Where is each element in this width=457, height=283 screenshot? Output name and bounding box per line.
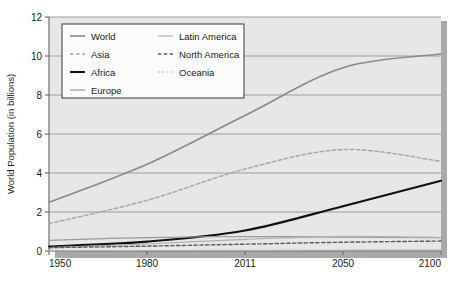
y-tick-label: 4 [36,168,42,179]
legend-label-north-america: North America [179,49,240,60]
y-tick-label: 10 [31,51,43,62]
x-tick-label: 2050 [332,258,355,269]
x-tick-label: 1950 [49,258,72,269]
x-tick-label: 2011 [234,258,256,269]
x-tick-label: 2100 [419,258,442,269]
y-tick-label: 0 [36,246,42,257]
legend-label-europe: Europe [91,85,122,96]
x-tick-label: 1980 [136,258,159,269]
legend-label-world: World [91,31,116,42]
legend-label-oceania: Oceania [179,67,215,78]
legend-label-latin-america: Latin America [179,31,237,42]
y-axis-ticks: 024681012 [31,12,49,257]
y-axis-title: World Population (in billions) [5,74,16,194]
y-tick-label: 12 [31,12,43,23]
y-tick-label: 8 [36,90,42,101]
chart-figure: 024681012 19501980201120502100 World Pop… [0,0,457,283]
population-line-chart: 024681012 19501980201120502100 World Pop… [0,0,457,283]
y-tick-label: 2 [36,207,42,218]
chart-legend: WorldAsiaAfricaEuropeLatin AmericaNorth … [62,24,244,98]
legend-label-africa: Africa [91,67,116,78]
legend-label-asia: Asia [91,49,110,60]
y-tick-label: 6 [36,129,42,140]
